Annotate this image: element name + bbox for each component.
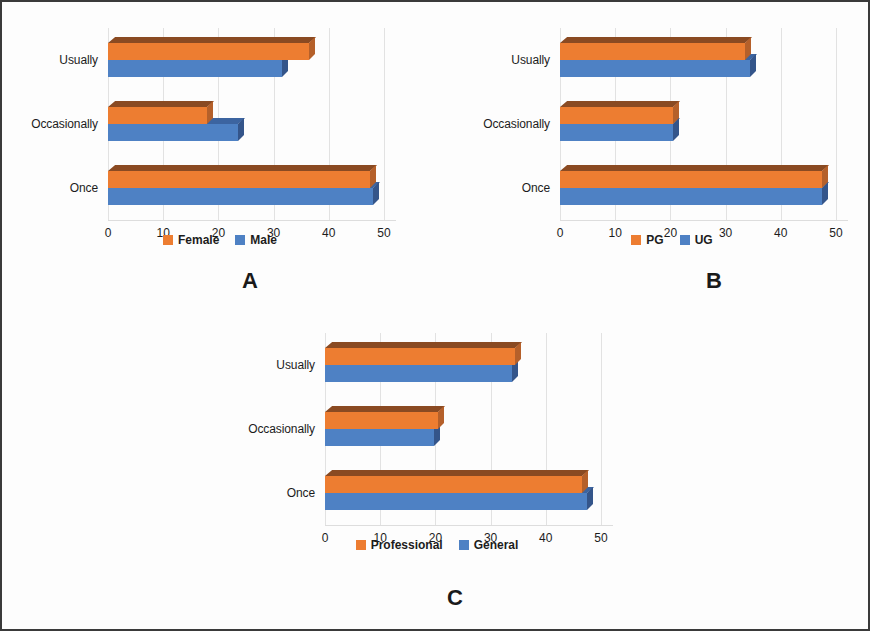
gridline [836,28,837,220]
y-axis-category-label: Once [522,181,550,195]
legend-swatch-icon [235,235,245,245]
legend-entry[interactable]: General [459,538,519,552]
bar-side-face [238,118,244,141]
axis-baseline [560,220,848,221]
legend-label: General [474,538,519,552]
plot-area-c: 01020304050OnceOccasionallyUsually [325,333,613,525]
legend-entry[interactable]: PG [631,233,663,247]
legend-a: FemaleMale [70,228,370,252]
bar-professional-occasionally [325,412,438,429]
legend-entry[interactable]: Male [235,233,277,247]
gridline [601,333,602,525]
bar-male-usually [108,60,282,77]
figure-container: 01020304050OnceOccasionallyUsually Femal… [0,0,870,631]
bar-side-face [587,487,593,510]
y-axis-category-label: Occasionally [483,117,550,131]
bar-front-face [108,124,238,141]
y-axis-category-label: Once [70,181,98,195]
bar-ug-occasionally [560,124,673,141]
y-axis-category-label: Occasionally [31,117,98,131]
bar-side-face [438,406,444,429]
legend-label: PG [646,233,663,247]
bar-front-face [108,43,309,60]
bar-front-face [108,107,207,124]
bar-female-once [108,171,370,188]
bar-side-face [750,54,756,77]
legend-entry[interactable]: Professional [356,538,443,552]
x-axis-tick-label: 50 [829,226,842,240]
gridline [384,28,385,220]
bar-front-face [325,348,515,365]
bar-general-usually [325,365,512,382]
bar-front-face [325,476,582,493]
bar-pg-usually [560,43,745,60]
bar-front-face [560,43,745,60]
legend-swatch-icon [680,235,690,245]
bar-front-face [108,60,282,77]
plot-area-b: 01020304050OnceOccasionallyUsually [560,28,848,220]
legend-label: Female [178,233,219,247]
bar-male-occasionally [108,124,238,141]
panel-letter-c: C [447,585,463,611]
bar-side-face [515,342,521,365]
bar-ug-usually [560,60,750,77]
bar-pg-occasionally [560,107,673,124]
y-axis-category-label: Usually [59,53,98,67]
bar-ug-once [560,188,822,205]
axis-baseline [108,220,396,221]
bar-general-once [325,493,587,510]
bar-male-once [108,188,373,205]
bar-pg-once [560,171,822,188]
bar-professional-once [325,476,582,493]
y-axis-category-label: Usually [276,358,315,372]
y-axis-category-label: Once [287,486,315,500]
bar-front-face [560,171,822,188]
legend-label: Male [250,233,277,247]
legend-c: ProfessionalGeneral [267,533,607,557]
legend-entry[interactable]: Female [163,233,219,247]
y-axis-category-label: Usually [511,53,550,67]
bar-side-face [309,37,315,60]
bar-female-usually [108,43,309,60]
legend-swatch-icon [356,540,366,550]
bar-front-face [560,188,822,205]
plot-area-a: 01020304050OnceOccasionallyUsually [108,28,396,220]
bar-front-face [325,493,587,510]
axis-baseline [325,525,613,526]
bar-professional-usually [325,348,515,365]
bar-front-face [560,124,673,141]
chart-panel-b: 01020304050OnceOccasionallyUsually PGUG … [442,10,864,310]
legend-entry[interactable]: UG [680,233,713,247]
bar-front-face [560,107,673,124]
legend-swatch-icon [459,540,469,550]
panel-letter-b: B [706,268,722,294]
bar-side-face [373,182,379,205]
bar-front-face [108,171,370,188]
chart-panel-c: 01020304050OnceOccasionallyUsually Profe… [227,317,647,625]
legend-label: Professional [371,538,443,552]
bar-front-face [325,365,512,382]
bar-front-face [108,188,373,205]
chart-panel-a: 01020304050OnceOccasionallyUsually Femal… [10,10,430,310]
legend-swatch-icon [631,235,641,245]
panel-letter-a: A [242,268,258,294]
bar-general-occasionally [325,429,434,446]
legend-b: PGUG [522,228,822,252]
legend-swatch-icon [163,235,173,245]
y-axis-category-label: Occasionally [248,422,315,436]
bar-female-occasionally [108,107,207,124]
bar-front-face [325,429,434,446]
x-axis-tick-label: 50 [377,226,390,240]
bar-front-face [325,412,438,429]
bar-front-face [560,60,750,77]
legend-label: UG [695,233,713,247]
